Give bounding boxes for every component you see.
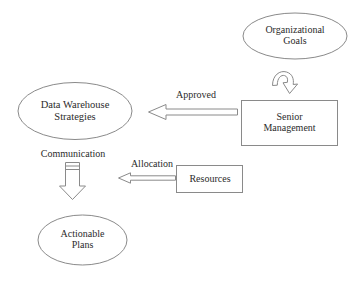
actionable-plans-shape[interactable] <box>38 215 127 265</box>
approved-label: Approved <box>156 89 236 100</box>
organizational-goals-shape[interactable] <box>243 13 347 59</box>
diagram-canvas: Organizational Goals Senior Management D… <box>0 0 353 284</box>
communication-arrow[interactable] <box>60 163 86 200</box>
data-warehouse-strategies-shape[interactable] <box>18 83 132 140</box>
diagram-vector-layer <box>0 0 353 284</box>
communication-label: Communication <box>18 148 128 159</box>
resources-shape[interactable] <box>177 166 243 193</box>
goals-feedback-arrow[interactable] <box>273 72 298 94</box>
approved-arrow[interactable] <box>149 105 238 120</box>
allocation-label: Allocation <box>116 158 188 169</box>
allocation-arrow[interactable] <box>119 173 176 183</box>
senior-management-shape[interactable] <box>242 101 338 146</box>
